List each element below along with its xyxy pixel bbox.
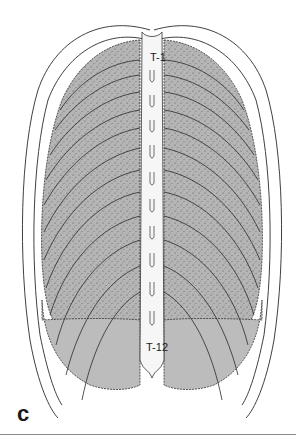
left-lung [42, 40, 140, 340]
label-t1: T-1 [150, 51, 166, 63]
right-lung [164, 40, 262, 340]
thoracic-cage-illustration [0, 0, 304, 440]
label-t12: T-12 [146, 341, 168, 353]
vertebral-column [140, 32, 164, 378]
horizontal-rule [0, 434, 296, 435]
panel-label: c [17, 401, 29, 427]
